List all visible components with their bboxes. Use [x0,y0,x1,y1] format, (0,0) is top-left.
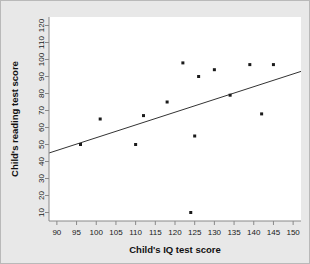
x-tick-label: 110 [129,228,142,237]
x-axis-title: Child's IQ test score [129,244,220,255]
y-tick-label: 110 [37,36,46,49]
x-axis-ticks: 9095100105110115120125130135140145150 [52,221,300,237]
x-tick-label: 115 [149,228,162,237]
data-point [213,68,216,71]
x-tick-label: 135 [227,228,241,237]
y-tick-label: 80 [37,89,46,98]
x-tick-label: 120 [168,228,182,237]
x-tick-label: 130 [208,228,222,237]
x-tick-label: 95 [72,228,81,237]
y-axis-title: Child's reading test score [9,61,20,177]
y-tick-label: 120 [37,18,46,32]
y-tick-label: 60 [37,123,46,132]
x-tick-label: 125 [188,228,202,237]
data-point [99,118,102,121]
x-tick-label: 150 [286,228,300,237]
y-tick-label: 50 [37,140,46,149]
x-tick-label: 140 [247,228,261,237]
y-tick-label: 100 [37,52,46,66]
data-point [272,63,275,66]
data-point [229,94,232,97]
y-tick-label: 70 [37,106,46,115]
x-tick-label: 100 [90,228,104,237]
data-point [134,143,137,146]
x-tick-label: 145 [267,228,281,237]
x-tick-label: 90 [52,228,61,237]
data-point [142,114,145,117]
y-tick-label: 40 [37,157,46,166]
scatter-plot: 9095100105110115120125130135140145150 10… [1,1,310,264]
chart-figure: 9095100105110115120125130135140145150 10… [0,0,310,264]
y-axis-ticks: 102030405060708090100110120 [37,18,50,217]
data-point [197,75,200,78]
data-point [260,112,263,115]
data-point [166,101,169,104]
y-tick-label: 20 [37,191,46,200]
plot-panel [49,17,301,221]
data-point [79,143,82,146]
y-tick-label: 90 [37,72,46,81]
data-point [193,135,196,138]
x-tick-label: 105 [109,228,123,237]
y-tick-label: 10 [37,208,46,217]
y-tick-label: 30 [37,174,46,183]
data-point [248,63,251,66]
data-point [181,61,184,64]
data-point [189,211,192,214]
